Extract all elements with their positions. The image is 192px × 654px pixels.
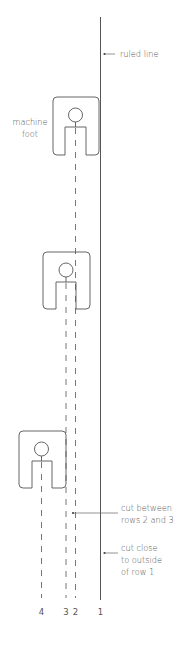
cut-between-callout: cut between rows 2 and 3 (72, 503, 174, 525)
row-number-2: 2 (73, 607, 78, 617)
machine-foot-icon-2 (43, 252, 90, 309)
row-number-4: 4 (39, 607, 44, 617)
cut-close-callout: cut close to outside of row 1 (103, 543, 162, 577)
cut-close-label-1: cut close (121, 543, 158, 553)
ruled-line-label: ruled line (120, 49, 158, 59)
ruled-line-callout: ruled line (103, 49, 158, 59)
svg-text:machine: machine (12, 117, 47, 127)
machine-foot-icon-3 (19, 431, 66, 488)
row-number-1: 1 (98, 607, 103, 617)
cut-close-label-3: of row 1 (121, 567, 154, 577)
cut-between-label-1: cut between (121, 503, 172, 513)
cut-close-label-2: to outside (121, 555, 162, 565)
row-number-3: 3 (63, 607, 68, 617)
cutting-guide-diagram: ruled line machine foot cut between rows… (0, 0, 192, 654)
svg-text:foot: foot (22, 129, 38, 139)
cut-between-label-2: rows 2 and 3 (121, 515, 174, 525)
machine-foot-icon-1 (53, 97, 99, 155)
machine-foot-label: machine foot (12, 117, 47, 139)
row-numbers: 4 3 2 1 (39, 607, 103, 617)
